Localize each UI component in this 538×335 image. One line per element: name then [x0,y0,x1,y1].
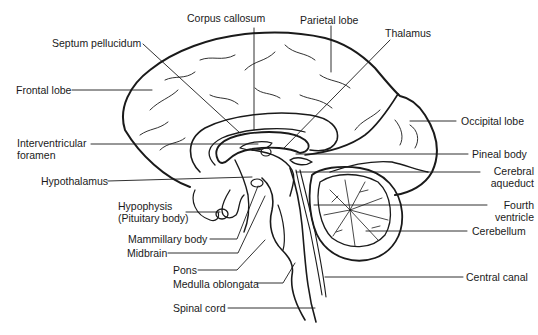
leader-pons [198,240,265,270]
label-medulla-oblongata: Medulla oblongata [173,278,259,290]
label-interventricular-line2: foramen [17,149,86,161]
label-septum-pellucidum: Septum pellucidum [52,37,141,49]
label-cerebral-aqueduct-line1: Cerebral [478,165,534,177]
label-interventricular-line1: Interventricular [17,137,86,149]
label-pineal-body: Pineal body [472,148,527,160]
label-interventricular-foramen: Interventricular foramen [17,137,86,161]
leader-hypothalamus [108,177,252,181]
label-cerebral-aqueduct: Cerebral aqueduct [478,165,534,189]
label-hypophysis: Hypophysis (Pituitary body) [118,200,189,224]
label-spinal-cord: Spinal cord [173,302,226,314]
label-fourth-ventricle-line1: Fourth [478,199,534,211]
label-hypothalamus: Hypothalamus [41,175,108,187]
brain-diagram: Corpus callosum Parietal lobe Septum pel… [0,0,538,335]
label-pons: Pons [173,264,197,276]
label-parietal-lobe: Parietal lobe [300,14,358,26]
label-frontal-lobe: Frontal lobe [16,84,71,96]
label-thalamus: Thalamus [385,27,431,39]
label-fourth-ventricle: Fourth ventricle [478,199,534,223]
label-corpus-callosum: Corpus callosum [187,12,265,24]
label-central-canal: Central canal [466,271,528,283]
leader-medulla-oblongata [257,263,295,283]
label-hypophysis-line2: (Pituitary body) [118,212,189,224]
label-mammillary-body: Mammillary body [128,233,207,245]
mammillary-shape [251,179,263,187]
label-hypophysis-line1: Hypophysis [118,200,189,212]
label-cerebellum: Cerebellum [472,225,526,237]
label-occipital-lobe: Occipital lobe [461,115,524,127]
label-cerebral-aqueduct-line2: aqueduct [478,177,534,189]
brain-illustration [0,0,538,335]
leader-septum-pellucidum [143,44,240,133]
leader-mammillary-body [210,186,258,239]
label-midbrain: Midbrain [127,247,167,259]
label-fourth-ventricle-line2: ventricle [478,211,534,223]
